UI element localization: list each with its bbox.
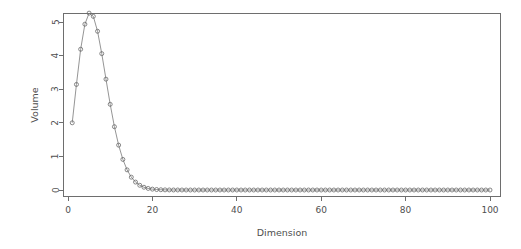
- y-axis-title: Volume: [29, 87, 40, 122]
- y-tick-label: 5: [51, 19, 61, 25]
- x-tick-label: 0: [65, 205, 71, 215]
- chart-figure: 012345020406080100 DimensionVolume: [0, 0, 521, 249]
- x-tick-label: 20: [147, 205, 159, 215]
- x-tick-label: 100: [481, 205, 498, 215]
- y-tick-label: 2: [51, 120, 61, 126]
- y-tick-label: 0: [51, 187, 61, 193]
- x-tick-label: 40: [231, 205, 243, 215]
- x-tick-label: 60: [315, 205, 327, 215]
- x-tick-label: 80: [400, 205, 412, 215]
- chart-background: [0, 0, 521, 249]
- y-tick-label: 3: [51, 86, 61, 92]
- y-tick-label: 1: [51, 154, 61, 160]
- y-tick-label: 4: [51, 52, 61, 58]
- volume-vs-dimension-plot: 012345020406080100 DimensionVolume: [0, 0, 521, 249]
- x-axis-title: Dimension: [257, 227, 308, 238]
